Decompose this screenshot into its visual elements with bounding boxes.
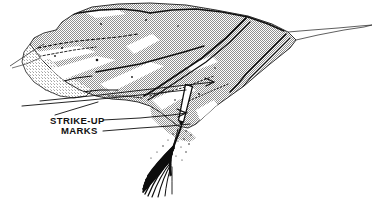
strike-up-marks-figure: STRIKE-UP MARKS (0, 0, 382, 203)
illustration-canvas: STRIKE-UP MARKS (0, 0, 382, 203)
leader-line-upleft (55, 102, 98, 115)
callout-line-2: MARKS (61, 125, 98, 136)
callout-label: STRIKE-UP MARKS (50, 115, 105, 136)
brush-tassel (143, 127, 181, 197)
